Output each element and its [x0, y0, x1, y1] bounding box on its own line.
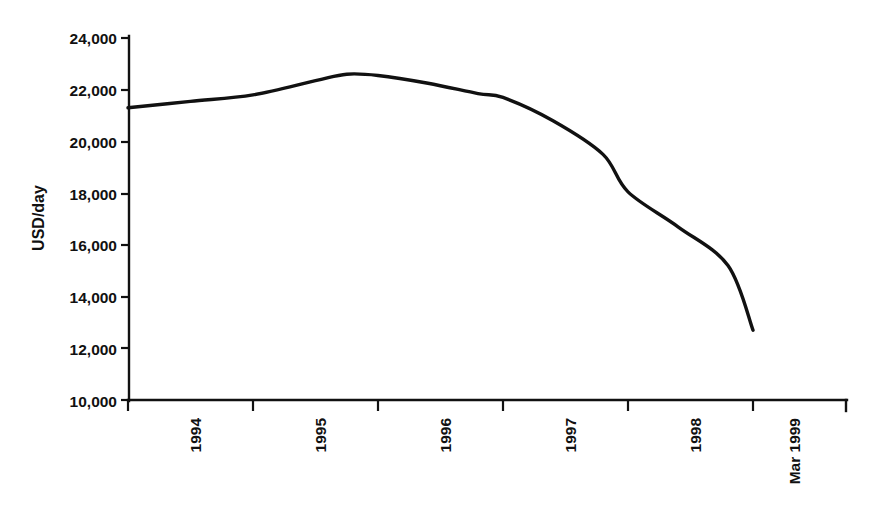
- y-tick-label: 12,000: [70, 341, 117, 358]
- y-tick-labels: 24,000 22,000 20,000 18,000 16,000 14,00…: [70, 30, 117, 410]
- y-tick-label: 18,000: [70, 186, 117, 203]
- x-tick-label: 1994: [187, 418, 204, 453]
- line-chart: USD/day 24,000 22,000 20,000 18,000 16,0…: [0, 0, 871, 523]
- x-tick-label: Mar 1999: [786, 418, 803, 485]
- y-tick-label: 10,000: [70, 393, 117, 410]
- data-series-line: [128, 74, 753, 330]
- y-tick-label: 20,000: [70, 134, 117, 151]
- y-axis-title-text: USD/day: [30, 185, 47, 251]
- y-tick-label: 24,000: [70, 30, 117, 47]
- y-tick-label: 16,000: [70, 237, 117, 254]
- y-tick-label: 14,000: [70, 289, 117, 306]
- y-axis-title: USD/day: [30, 185, 47, 251]
- chart-container: USD/day 24,000 22,000 20,000 18,000 16,0…: [0, 0, 871, 523]
- x-tick-label: 1998: [687, 418, 704, 453]
- x-tick-labels: 1994 1995 1996 1997 1998 Mar 1999: [187, 418, 803, 485]
- x-tick-marks: [128, 400, 753, 411]
- x-tick-label: 1996: [437, 418, 454, 453]
- x-tick-label: 1997: [562, 418, 579, 452]
- x-tick-label: 1995: [312, 418, 329, 453]
- y-tick-label: 22,000: [70, 82, 117, 99]
